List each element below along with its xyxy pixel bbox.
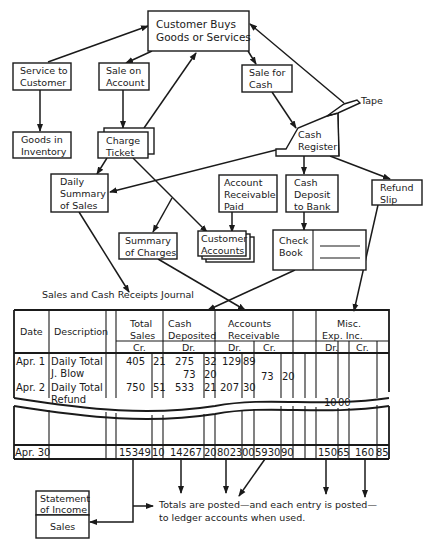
svg-text:Sale for: Sale for xyxy=(249,67,286,78)
svg-text:Summary: Summary xyxy=(125,235,171,246)
cash-register: Tape Cash Register xyxy=(276,95,383,156)
svg-text:Ticket: Ticket xyxy=(105,147,134,158)
box-sale-on-account: Sale on Account xyxy=(99,63,149,90)
svg-text:Customer Buys: Customer Buys xyxy=(156,18,236,30)
svg-text:10: 10 xyxy=(324,397,337,408)
table-row: J. Blow 73 20 73 20 xyxy=(50,368,295,382)
svg-text:Date: Date xyxy=(20,326,43,337)
svg-text:Cash: Cash xyxy=(168,318,191,329)
box-account-receivable-paid: Account Receivable Paid xyxy=(219,175,277,212)
svg-text:Book: Book xyxy=(279,247,303,258)
box-daily-summary: Daily Summary of Sales xyxy=(51,174,108,212)
box-service-to-customer: Service to Customer xyxy=(13,63,71,90)
svg-text:Receivable: Receivable xyxy=(228,330,280,341)
box-charge-ticket: Charge Ticket xyxy=(98,128,154,158)
svg-text:Deposit: Deposit xyxy=(294,189,331,200)
svg-text:275: 275 xyxy=(175,356,194,367)
statement-of-income: Statement of Income Sales xyxy=(36,491,90,538)
box-goods-in-inventory: Goods in Inventory xyxy=(13,132,71,158)
svg-text:Sale on: Sale on xyxy=(106,65,141,76)
svg-text:00: 00 xyxy=(242,447,255,458)
svg-text:Goods or Services: Goods or Services xyxy=(156,31,251,43)
svg-text:to Bank: to Bank xyxy=(294,201,331,212)
svg-text:129: 129 xyxy=(222,356,241,367)
svg-text:Dr.: Dr. xyxy=(325,342,338,353)
svg-text:Summary: Summary xyxy=(60,188,106,199)
svg-text:Dr.: Dr. xyxy=(182,342,195,353)
table-row: Apr. 2 Daily Total 750 51 533 21 207 30 xyxy=(16,382,256,393)
journal-title: Sales and Cash Receipts Journal xyxy=(42,289,194,300)
svg-text:Inventory: Inventory xyxy=(21,146,67,157)
svg-text:Accounts: Accounts xyxy=(228,318,271,329)
svg-text:Apr. 30: Apr. 30 xyxy=(15,447,50,458)
svg-text:Description: Description xyxy=(54,326,108,337)
svg-text:Sales: Sales xyxy=(130,330,155,341)
svg-text:of Sales: of Sales xyxy=(60,200,98,211)
svg-text:65: 65 xyxy=(337,447,350,458)
svg-text:8023: 8023 xyxy=(217,447,242,458)
svg-text:20: 20 xyxy=(204,447,217,458)
svg-text:73: 73 xyxy=(183,369,196,380)
svg-text:Cr.: Cr. xyxy=(263,342,276,353)
svg-text:Accounts: Accounts xyxy=(201,245,244,256)
table-row: Apr. 1 Daily Total 405 21 275 32 129 89 xyxy=(16,356,256,367)
svg-text:Daily Total: Daily Total xyxy=(51,356,103,367)
svg-text:51: 51 xyxy=(153,382,166,393)
svg-text:21: 21 xyxy=(204,382,217,393)
svg-text:207: 207 xyxy=(220,382,239,393)
box-cash-deposit: Cash Deposit to Bank xyxy=(286,175,338,212)
svg-text:Apr. 2: Apr. 2 xyxy=(16,382,45,393)
table-row: Refund 10 00 xyxy=(51,394,351,408)
check-book: Check Book xyxy=(273,230,366,270)
svg-text:Paid: Paid xyxy=(224,201,244,212)
svg-text:Register: Register xyxy=(298,141,337,152)
svg-text:Refund: Refund xyxy=(380,182,413,193)
svg-text:32: 32 xyxy=(204,356,217,367)
svg-text:Totals are posted—and each ent: Totals are posted—and each entry is post… xyxy=(158,499,377,510)
svg-text:73: 73 xyxy=(261,371,274,382)
totals-row: Apr. 30 15349 10 14267 20 8023 00 5930 9… xyxy=(15,447,389,458)
svg-text:Deposited: Deposited xyxy=(168,330,216,341)
svg-text:85: 85 xyxy=(376,447,389,458)
svg-text:Account: Account xyxy=(224,177,263,188)
svg-text:20: 20 xyxy=(204,369,217,380)
svg-text:Cr.: Cr. xyxy=(356,342,369,353)
svg-text:Cash: Cash xyxy=(294,177,317,188)
svg-text:Cr.: Cr. xyxy=(133,342,146,353)
svg-text:21: 21 xyxy=(153,356,166,367)
svg-text:Tape: Tape xyxy=(360,95,383,106)
box-customer-buys: Customer Buys Goods or Services xyxy=(148,11,251,51)
svg-text:Apr. 1: Apr. 1 xyxy=(16,356,45,367)
journal-table: Date Description Total Sales Cash Deposi… xyxy=(12,310,392,459)
svg-text:5930: 5930 xyxy=(255,447,280,458)
box-refund-slip: Refund Slip xyxy=(372,180,422,205)
box-sale-for-cash: Sale for Cash xyxy=(242,65,292,92)
svg-text:20: 20 xyxy=(282,371,295,382)
svg-text:Cash: Cash xyxy=(249,79,272,90)
svg-text:to ledger accounts when used.: to ledger accounts when used. xyxy=(159,512,305,523)
journal-rows: Apr. 1 Daily Total 405 21 275 32 129 89 … xyxy=(16,356,351,408)
svg-text:15349: 15349 xyxy=(119,447,151,458)
svg-text:Check: Check xyxy=(279,235,309,246)
svg-text:of Charges: of Charges xyxy=(125,247,176,258)
svg-text:Charge: Charge xyxy=(106,135,140,146)
svg-text:750: 750 xyxy=(126,382,145,393)
svg-text:Total: Total xyxy=(129,318,152,329)
svg-text:Customer: Customer xyxy=(201,233,247,244)
svg-text:00: 00 xyxy=(338,397,351,408)
svg-text:14267: 14267 xyxy=(170,447,202,458)
svg-text:Service to: Service to xyxy=(20,65,68,76)
sales-label: Sales xyxy=(50,521,75,532)
svg-text:of Income: of Income xyxy=(40,504,87,515)
svg-text:89: 89 xyxy=(243,356,256,367)
svg-text:Goods in: Goods in xyxy=(21,134,63,145)
svg-text:Cash: Cash xyxy=(298,129,321,140)
svg-text:Customer: Customer xyxy=(20,77,66,88)
svg-text:Dr.: Dr. xyxy=(228,342,241,353)
svg-text:533: 533 xyxy=(175,382,194,393)
accounting-flow-diagram: Customer Buys Goods or Services Service … xyxy=(0,0,431,546)
svg-text:Slip: Slip xyxy=(380,194,397,205)
svg-text:160: 160 xyxy=(355,447,374,458)
posting-note: Totals are posted—and each entry is post… xyxy=(158,499,377,523)
svg-text:Statement: Statement xyxy=(40,493,90,504)
